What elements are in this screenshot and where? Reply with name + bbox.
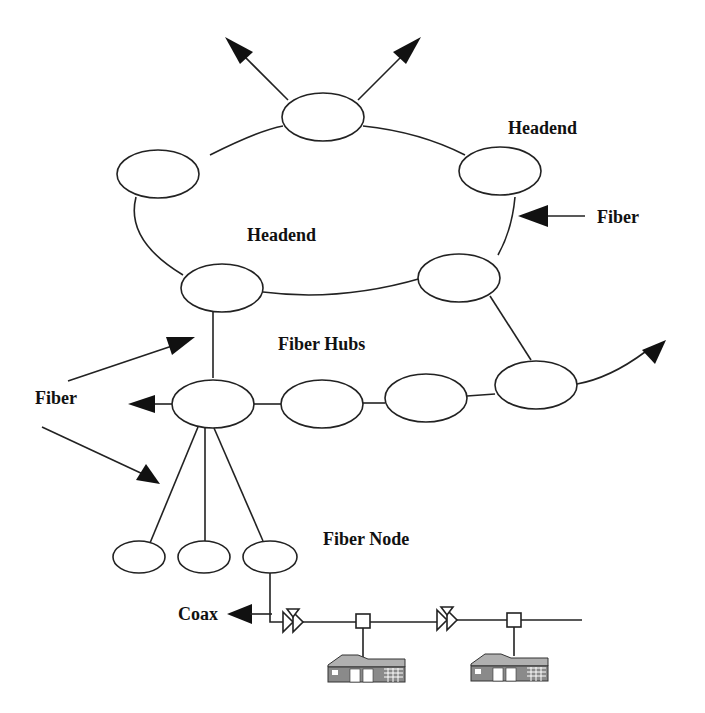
- fiber-hub-3: [385, 374, 467, 422]
- amplifier-2: [437, 607, 457, 630]
- label-headend-top: Headend: [508, 118, 577, 138]
- outgoing-arrows-top: [225, 37, 421, 100]
- label-fiber-hubs: Fiber Hubs: [278, 334, 365, 354]
- fiber-hub-2: [281, 380, 363, 428]
- label-fiber-node: Fiber Node: [323, 529, 409, 549]
- headend-node-bottom-left: [181, 264, 263, 312]
- headend-node-left: [117, 150, 199, 198]
- label-fiber-left: Fiber: [35, 388, 77, 408]
- cable-network-diagram: Headend Headend Fiber Fiber Hubs Fiber F…: [0, 0, 705, 713]
- fiber-arrows-left: [42, 337, 195, 484]
- label-headend-ring: Headend: [247, 225, 316, 245]
- amplifier-1: [283, 609, 303, 632]
- fiber-node-1: [113, 541, 165, 573]
- house-1: [328, 655, 405, 682]
- label-fiber-right: Fiber: [597, 207, 639, 227]
- fiber-hub-1: [172, 380, 254, 428]
- headend-node-right: [459, 147, 541, 195]
- fiber-hub-4: [495, 361, 577, 409]
- fiber-arrow-right: [518, 205, 585, 227]
- headend-node-top: [282, 93, 364, 141]
- house-2: [471, 654, 548, 681]
- tap-1: [356, 614, 370, 628]
- tap-2: [507, 613, 521, 627]
- fiber-node-3: [243, 541, 297, 573]
- headend-node-bottom-right: [418, 254, 500, 302]
- label-coax: Coax: [178, 604, 218, 624]
- fiber-node-2: [178, 541, 230, 573]
